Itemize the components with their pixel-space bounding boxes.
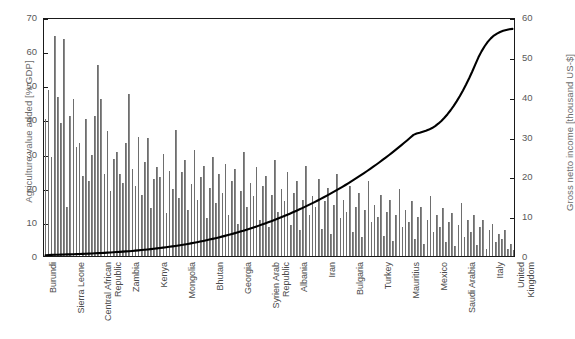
x-tick-label: Mongolia [188, 262, 198, 339]
x-tick-label: Mexico [440, 262, 450, 339]
y-tick-right-20: 20 [522, 172, 546, 182]
x-tick-label: Bulgaria [356, 262, 366, 339]
y-tick-left-30: 30 [13, 150, 37, 160]
y-tick-right-50: 50 [522, 53, 546, 63]
y-tick-left-50: 50 [13, 81, 37, 91]
y-tick-right-0: 0 [522, 252, 546, 262]
y-tick-left-20: 20 [13, 184, 37, 194]
x-tick-label: Zambia [132, 262, 142, 339]
x-tick-label: Kenya [160, 262, 170, 339]
x-tick-label: Mauritius [412, 262, 422, 339]
x-tick-label: Burundi [49, 262, 59, 339]
y-tick-left-10: 10 [13, 218, 37, 228]
y-tick-left-0: 0 [13, 252, 37, 262]
y-axis-right-title: Gross netto income [thousand US-$] [564, 38, 575, 228]
x-tick-label: UnitedKingdom [517, 262, 536, 339]
plot-area [43, 18, 515, 257]
y-tick-left-70: 70 [13, 13, 37, 23]
y-tick-right-60: 60 [522, 13, 546, 23]
y-tick-right-30: 30 [522, 133, 546, 143]
x-tick-label: Syrien ArabRepublic [272, 262, 291, 339]
x-tick-label: Turkey [384, 262, 394, 339]
x-tick-label: Central AfricanRepublic [104, 262, 123, 339]
y-tick-right-40: 40 [522, 93, 546, 103]
x-tick-label: Iran [328, 262, 338, 339]
y-tick-left-60: 60 [13, 47, 37, 57]
x-tick-label: Albania [300, 262, 310, 339]
y-tick-right-10: 10 [522, 212, 546, 222]
x-tick-label: Sierra Leone [77, 262, 87, 339]
x-tick-label: Georgia [244, 262, 254, 339]
y-tick-left-40: 40 [13, 115, 37, 125]
line-series [44, 19, 514, 256]
x-tick-label: Saudi Arabia [468, 262, 478, 339]
x-tick-label: Italy [496, 262, 506, 339]
x-tick-label: Bhutan [216, 262, 226, 339]
